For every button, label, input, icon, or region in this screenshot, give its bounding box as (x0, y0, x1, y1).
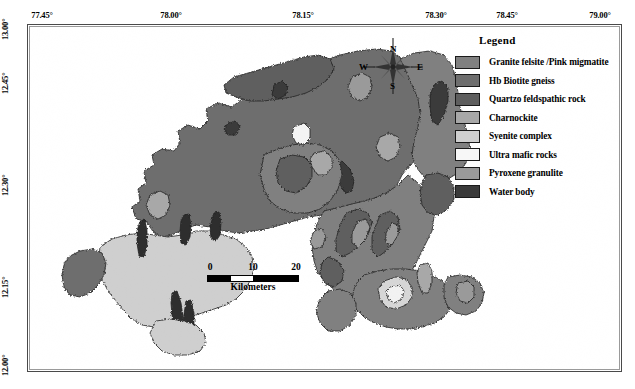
legend-item-label: Charnockite (489, 113, 537, 123)
legend-item-water-body[interactable]: Water body (455, 185, 635, 199)
legend-swatch (455, 74, 480, 87)
legend-item-label: Water body (489, 187, 535, 197)
left-axis-label: 12.00° (0, 355, 10, 376)
legend-item-label: Syenite complex (489, 131, 552, 141)
north-arrow: N E S W (357, 36, 429, 98)
legend-item-granite-felsite[interactable]: Granite felsite /Pink migmatite (455, 55, 635, 69)
legend-item-quartzo-feldspathic-rock[interactable]: Quartzo feldspathic rock (455, 92, 635, 106)
top-axis-label: 78.00° (160, 10, 181, 20)
left-axis-label: 12.30° (0, 175, 10, 196)
left-axis-label: 13.00° (0, 19, 10, 40)
compass-label-east: E (417, 62, 423, 72)
legend-swatch (455, 148, 480, 161)
legend-item-pyroxene-granulite[interactable]: Pyroxene granulite (455, 166, 635, 180)
legend-swatch (455, 111, 480, 124)
top-axis-label: 79.00° (589, 10, 610, 20)
scale-tick-label: 20 (291, 262, 301, 272)
scale-bar-segment (208, 276, 231, 281)
legend-swatch (455, 93, 480, 106)
legend-item-label: Ultra mafic rocks (489, 150, 557, 160)
legend-swatch (455, 56, 480, 69)
map-figure: 77.45° 78.00° 78.15° 78.30° 78.45° 79.00… (0, 0, 635, 389)
scale-bar-ticks: 0 10 20 (207, 262, 299, 274)
scale-tick-label: 10 (248, 262, 258, 272)
top-axis-label: 78.30° (425, 10, 446, 20)
legend-title: Legend (479, 34, 635, 46)
legend-item-hb-biotite-gneiss[interactable]: Hb Biotite gneiss (455, 74, 635, 88)
top-axis-label: 78.15° (292, 10, 313, 20)
compass-label-north: N (390, 44, 397, 54)
legend-item-syenite-complex[interactable]: Syenite complex (455, 129, 635, 143)
legend-item-label: Hb Biotite gneiss (489, 76, 554, 86)
legend-item-ultra-mafic-rocks[interactable]: Ultra mafic rocks (455, 148, 635, 162)
legend: Legend Granite felsite /Pink migmatite H… (455, 34, 635, 203)
legend-swatch (455, 185, 480, 198)
legend-item-charnockite[interactable]: Charnockite (455, 111, 635, 125)
left-axis-label: 12.45° (0, 73, 10, 94)
scale-bar-unit-label: Kilometers (207, 282, 299, 292)
legend-item-label: Quartzo feldspathic rock (489, 94, 586, 104)
top-axis-label: 78.45° (496, 10, 517, 20)
legend-item-label: Granite felsite /Pink migmatite (489, 57, 609, 67)
legend-item-label: Pyroxene granulite (489, 168, 563, 178)
scale-bar-graphic (207, 275, 299, 282)
scale-bar: 0 10 20 Kilometers (207, 262, 299, 292)
legend-swatch (455, 167, 480, 180)
scale-tick-label: 0 (208, 262, 213, 272)
left-axis-label: 12.15° (0, 277, 10, 298)
compass-label-south: S (390, 81, 395, 91)
compass-label-west: W (359, 62, 368, 72)
scale-bar-segment (253, 276, 276, 281)
legend-swatch (455, 130, 480, 143)
scale-bar-segment (276, 276, 299, 281)
top-axis-label: 77.45° (31, 10, 52, 20)
